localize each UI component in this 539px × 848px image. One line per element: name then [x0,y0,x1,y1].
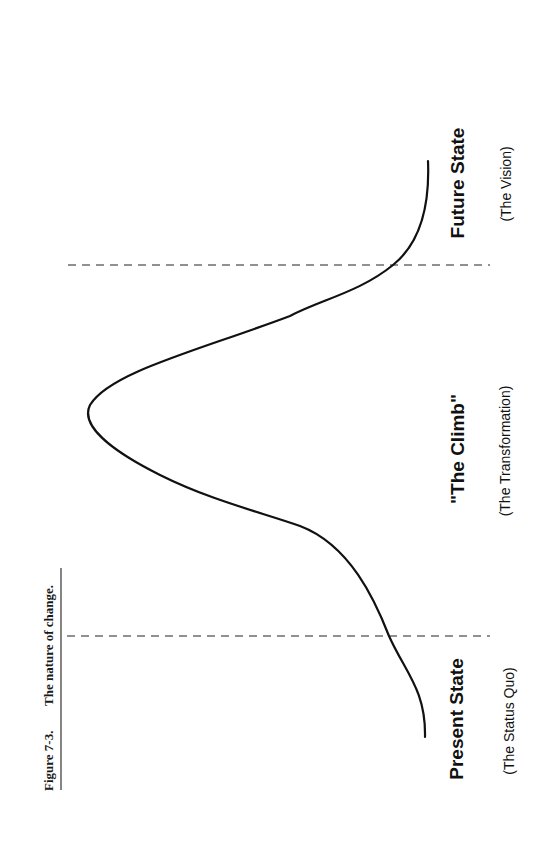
caption-figure-number: Figure 7-3. [41,731,56,791]
stage-climb-sublabel: (The Transformation) [497,386,513,517]
stage-climb: "The Climb" (The Transformation) [447,386,513,517]
stage-climb-label: "The Climb" [447,394,468,504]
stage-future: Future State (The Vision) [447,128,514,239]
change-curve [88,161,428,737]
stage-present-label: Present State [446,658,467,779]
stage-present: Present State (The Status Quo) [446,658,517,779]
nature-of-change-figure: Figure 7-3. The nature of change. Presen… [0,0,539,848]
figure-caption: Figure 7-3. The nature of change. [41,568,61,791]
caption-title: The nature of change. [41,585,56,706]
stage-future-label: Future State [447,128,468,239]
stage-future-sublabel: (The Vision) [498,146,514,221]
stage-present-sublabel: (The Status Quo) [501,667,517,774]
